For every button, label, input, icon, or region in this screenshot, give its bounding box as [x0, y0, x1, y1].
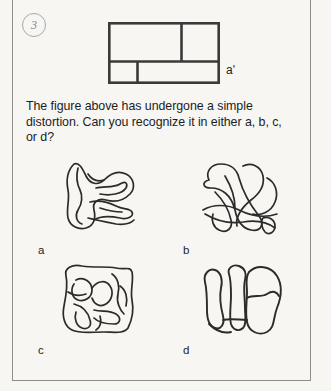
- option-b-label: b: [183, 244, 189, 256]
- option-b[interactable]: b: [167, 158, 307, 264]
- item-number-badge: 3: [22, 13, 46, 37]
- puzzle-page: 3 a' The figure above has undergone a si…: [0, 0, 331, 391]
- stimulus-figure: [108, 22, 220, 84]
- stimulus-label: a': [226, 63, 235, 77]
- answer-options: a b: [22, 158, 302, 370]
- option-a-label: a: [38, 244, 44, 256]
- page-border-bottom: [12, 380, 311, 381]
- prompt-text: The figure above has undergone a simple …: [26, 99, 294, 146]
- page-border-left: [12, 0, 13, 381]
- option-c[interactable]: c: [22, 258, 162, 364]
- option-d-label: d: [183, 344, 189, 356]
- option-a[interactable]: a: [22, 158, 162, 264]
- option-c-label: c: [38, 344, 44, 356]
- option-d[interactable]: d: [167, 258, 307, 364]
- page-border-right: [310, 0, 311, 381]
